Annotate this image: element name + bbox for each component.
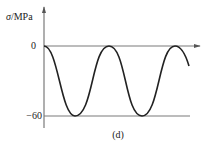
stress-curve (44, 46, 189, 116)
figure-caption: (d) (112, 129, 124, 141)
y-tick-0: 0 (31, 40, 36, 51)
stress-chart: σ/MPa 0 −60 (d) (0, 0, 208, 149)
y-tick-minus-60: −60 (26, 110, 42, 121)
y-axis-label: σ/MPa (6, 11, 33, 22)
